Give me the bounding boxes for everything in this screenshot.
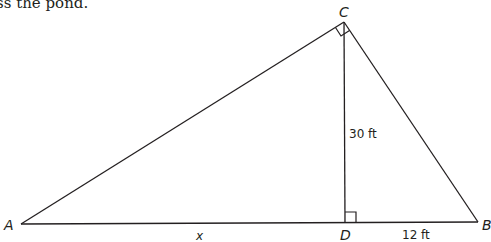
measure-ad: x [195,229,204,242]
right-angle-marker-d [345,212,356,223]
vertex-label-a: A [3,217,14,233]
caption-text: ss the pond. [0,0,88,12]
measure-db: 12 ft [402,228,430,242]
side-ab [21,222,478,224]
side-ac [21,22,344,224]
vertex-label-c: C [339,4,349,20]
side-cb [344,22,478,222]
measure-cd: 30 ft [349,127,377,141]
triangle-diagram: ss the pond. C A B D 30 ft 12 ft x [0,0,491,242]
altitude-cd [344,22,345,223]
vertex-label-d: D [340,227,351,242]
vertex-label-b: B [482,217,491,233]
right-angle-marker-c [336,28,350,37]
